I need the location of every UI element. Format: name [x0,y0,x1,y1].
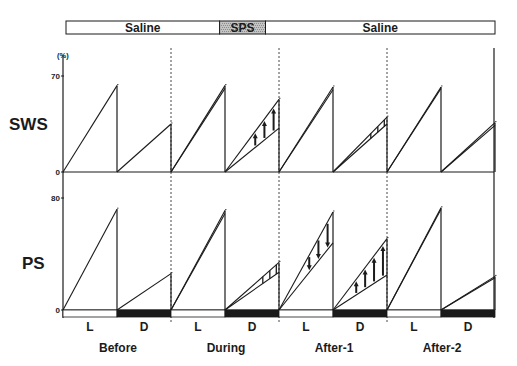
axis-labels: (%) SWS PS 070080 [9,51,69,315]
sps-stipple-dot [260,31,261,32]
treatment-label: Saline [363,21,399,35]
sps-stipple-dot [221,29,222,30]
dark-phase-bar [333,310,387,317]
sleep-sawtooth-figure: SalineSPSSaline LDLDLDLDBeforeDuringAfte… [0,0,517,366]
sawtooth-upper-line [117,274,171,310]
light-phase-bar [171,310,225,317]
sps-stipple-dot [225,29,226,30]
segment-during-d [225,261,281,310]
sawtooth-lower-line [225,128,279,172]
sps-stipple-dot [221,25,222,26]
y-unit-label: (%) [57,51,69,60]
sawtooth-lower-line [171,88,225,172]
phase-label: L [410,320,417,334]
sps-stipple-dot [255,29,256,30]
sawtooth-lower-line [441,278,495,310]
dark-phase-bar [441,310,495,317]
sps-stipple-dot [256,23,257,24]
panel-label-ps: PS [22,254,45,273]
dark-phase-bar [117,310,171,317]
dark-phase-bar [225,310,279,317]
sps-stipple-dot [227,29,228,30]
sps-stipple-dot [226,27,227,28]
sps-stipple-dot [260,23,261,24]
segment-during-l [171,210,227,310]
phase-label: D [464,320,473,334]
sawtooth-upper-line [225,99,279,172]
sps-stipple-dot [257,25,258,26]
phase-label: L [86,320,93,334]
sawtooth-lower-line [225,272,279,310]
sps-stipple-dot [259,29,260,30]
sawtooth-lower-line [333,275,387,310]
sawtooth-upper-line [279,212,333,310]
sawtooth-upper-line [63,209,117,310]
sps-stipple-dot [259,25,260,26]
sawtooth-lower-line [171,213,225,310]
segment-during-d [225,98,281,172]
sps-stipple-dot [255,25,256,26]
sawtooth-lower-line [441,125,495,172]
sps-stipple-dot [258,27,259,28]
segment-before-d [117,123,173,172]
sps-stipple-dot [226,23,227,24]
panel-sws [61,76,497,172]
sps-stipple-dot [228,23,229,24]
treatment-label: SPS [231,21,255,35]
sawtooth-lower-line [387,209,441,310]
light-phase-bar [279,310,333,317]
sawtooth-upper-line [333,239,387,310]
phase-label: L [194,320,201,334]
sps-stipple-dot [224,31,225,32]
sps-stipple-dot [264,31,265,32]
segment-during-l [171,85,227,172]
segment-after-1-d [333,238,389,310]
panel-label-sws: SWS [9,115,48,134]
sps-stipple-dot [224,23,225,24]
y-tick-label: 0 [56,306,61,315]
sawtooth-upper-line [333,117,387,172]
condition-label: After-1 [315,341,354,355]
sps-stipple-dot [224,27,225,28]
light-phase-bar [63,310,117,317]
sps-stipple-dot [223,25,224,26]
sps-stipple-dot [262,27,263,28]
y-tick-label: 0 [56,168,61,177]
treatment-bar: SalineSPSSaline [66,21,495,35]
segment-after-1-l [279,86,335,172]
sps-stipple-dot [264,23,265,24]
y-tick-label: 80 [51,194,60,203]
segment-after-2-l [387,207,443,310]
segment-after-1-l [279,211,335,310]
condition-label: Before [99,341,137,355]
sps-stipple-dot [258,31,259,32]
segment-after-2-d [441,275,497,310]
sawtooth-lower-line [279,243,333,310]
segment-before-l [63,85,119,172]
phase-label: D [248,320,257,334]
sawtooth-upper-line [117,124,171,172]
sps-stipple-dot [263,25,264,26]
sawtooth-upper-line [63,86,117,172]
sps-stipple-dot [223,29,224,30]
light-phase-bar [387,310,441,317]
sps-stipple-dot [222,31,223,32]
condition-label: After-2 [423,341,462,355]
phase-label: D [140,320,149,334]
sps-stipple-dot [222,23,223,24]
sps-stipple-dot [257,29,258,30]
sawtooth-upper-line [225,262,279,310]
sps-stipple-dot [260,27,261,28]
sps-stipple-dot [225,25,226,26]
segment-before-d [117,273,173,310]
sps-stipple-dot [256,31,257,32]
sps-stipple-dot [261,25,262,26]
sawtooth-lower-line [387,88,441,172]
sps-stipple-dot [222,27,223,28]
y-tick-label: 70 [51,72,60,81]
light-dark-bar: LDLDLDLDBeforeDuringAfter-1After-2 [63,310,495,355]
treatment-label: Saline [125,21,161,35]
sps-stipple-dot [228,27,229,28]
segment-after-1-d [333,116,389,172]
sps-stipple-dot [226,31,227,32]
